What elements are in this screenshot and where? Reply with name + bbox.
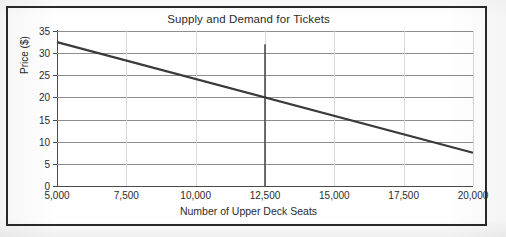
scanned-page-background: Supply and Demand for Tickets Price ($) … bbox=[0, 0, 506, 237]
y-tick-label-5: 5 bbox=[44, 158, 50, 169]
x-tick-label-12500: 12,500 bbox=[250, 190, 281, 201]
y-tick-label-30: 30 bbox=[39, 48, 50, 59]
y-tick-label-20: 20 bbox=[39, 92, 50, 103]
y-tick-mark-0 bbox=[53, 186, 57, 187]
x-tick-label-15000: 15,000 bbox=[319, 190, 350, 201]
y-axis-title: Price ($) bbox=[19, 36, 30, 74]
chart-figure-frame: Supply and Demand for Tickets Price ($) … bbox=[6, 6, 487, 226]
chart-title: Supply and Demand for Tickets bbox=[8, 13, 489, 25]
plot-area: 05101520253035 5,0007,50010,00012,50015,… bbox=[57, 31, 473, 186]
x-tick-label-17500: 17,500 bbox=[388, 190, 419, 201]
chart-series-layer bbox=[57, 31, 473, 186]
x-axis-title: Number of Upper Deck Seats bbox=[8, 205, 489, 217]
x-tick-label-5000: 5,000 bbox=[44, 190, 69, 201]
y-tick-label-10: 10 bbox=[39, 136, 50, 147]
x-tick-label-20000: 20,000 bbox=[458, 190, 489, 201]
y-tick-label-15: 15 bbox=[39, 114, 50, 125]
y-tick-label-35: 35 bbox=[39, 26, 50, 37]
gridline-x-20000 bbox=[473, 31, 474, 186]
y-tick-label-25: 25 bbox=[39, 70, 50, 81]
gridline-y-0 bbox=[57, 186, 473, 187]
x-tick-label-7500: 7,500 bbox=[114, 190, 139, 201]
x-tick-label-10000: 10,000 bbox=[180, 190, 211, 201]
